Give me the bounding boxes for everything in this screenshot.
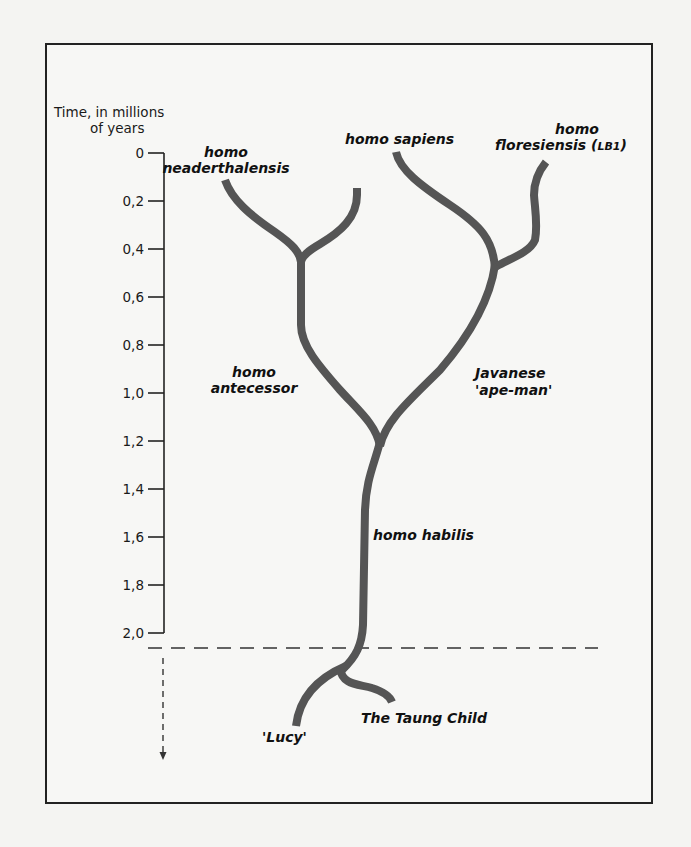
label-javanese-2: 'ape-man' — [475, 382, 552, 398]
label-taung: The Taung Child — [361, 710, 488, 726]
tick-labels: 0 0,2 0,4 0,6 0,8 1,0 1,2 1,4 1,6 1,8 2,… — [123, 145, 144, 641]
label-antecessor-1: homo — [232, 364, 276, 380]
branch-javanese — [380, 265, 495, 446]
tick-1-0: 1,0 — [123, 385, 144, 401]
tick-0-8: 0,8 — [123, 337, 144, 353]
dashed-down-arrow-icon — [160, 658, 167, 760]
label-sapiens: homo sapiens — [345, 131, 454, 147]
label-floresiensis-2: floresiensis (LB1) — [495, 137, 627, 153]
label-javanese-1: Javanese — [472, 365, 546, 381]
tick-1-4: 1,4 — [123, 481, 144, 497]
tick-0-6: 0,6 — [123, 289, 144, 305]
branch-habilis — [342, 442, 380, 670]
tick-2-0: 2,0 — [123, 625, 144, 641]
tick-0-2: 0,2 — [123, 193, 144, 209]
tick-1-6: 1,6 — [123, 529, 144, 545]
tick-1-8: 1,8 — [123, 577, 144, 593]
label-antecessor-2: antecessor — [211, 380, 299, 396]
axis-title-line2: of years — [90, 120, 144, 136]
label-neanderthalensis-1: homo — [204, 144, 248, 160]
branch-sapiens — [396, 152, 495, 270]
branch-taung — [340, 668, 392, 702]
branch-stub — [301, 188, 357, 262]
evolution-tree-diagram: Time, in millions of years 0 0,2 0,4 0,6… — [0, 0, 691, 847]
label-floresiensis-1: homo — [555, 121, 599, 137]
tick-0: 0 — [135, 145, 144, 161]
tree-branches — [225, 152, 546, 726]
branch-neanderthalensis — [225, 180, 301, 262]
tick-0-4: 0,4 — [123, 241, 144, 257]
label-lucy: 'Lucy' — [262, 729, 307, 745]
tick-1-2: 1,2 — [123, 433, 144, 449]
label-habilis: homo habilis — [373, 527, 474, 543]
time-axis — [148, 153, 164, 633]
branch-antecessor — [301, 258, 380, 446]
branch-floresiensis — [497, 162, 546, 266]
axis-title-line1: Time, in millions — [53, 104, 164, 120]
label-neanderthalensis-2: neaderthalensis — [162, 160, 289, 176]
species-labels: homo neaderthalensis homo sapiens homo f… — [162, 121, 626, 745]
